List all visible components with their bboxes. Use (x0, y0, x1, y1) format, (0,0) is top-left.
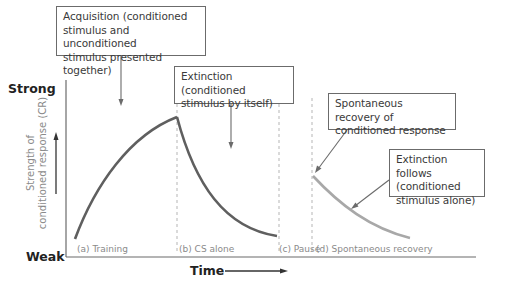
weak-label: Weak (26, 249, 65, 264)
y-axis-title: Strength of conditioned response (CR) (25, 88, 51, 238)
acquisition-curve (75, 117, 177, 239)
phase-label-d: (d) Spontaneous recovery (316, 244, 433, 254)
acquisition-callout: Acquisition (conditioned stimulus and un… (56, 6, 206, 56)
extinction-follows-line1: Extinction follows (396, 153, 478, 180)
phase-label-a: (a) Training (77, 244, 128, 254)
spontaneous-callout: Spontaneous recovery of conditioned resp… (328, 93, 456, 130)
extinction-follows-callout: Extinction follows (conditioned stimulus… (389, 149, 485, 197)
extinction-curve (177, 117, 277, 236)
extinction-pointer-head (229, 142, 234, 149)
extinction-follows-line2: (conditioned (396, 180, 478, 194)
time-arrow-head (280, 269, 288, 274)
spontaneous-line1: Spontaneous recovery of (335, 97, 449, 124)
extinction-follows-pointer (355, 180, 389, 206)
acquisition-line2: stimulus and unconditioned (63, 24, 199, 51)
extinction-follows-line3: stimulus alone) (396, 194, 478, 208)
y-axis-title-line2: conditioned response (CR) (37, 88, 49, 238)
phase-label-c: (c) Pause (279, 244, 320, 254)
time-label: Time (190, 263, 224, 278)
spontaneous-line2: conditioned response (335, 124, 449, 138)
extinction-follows-pointer-head (351, 203, 359, 210)
extinction-line2: stimulus by itself) (181, 97, 287, 111)
acquisition-pointer-head (119, 99, 124, 106)
spontaneous-pointer-head (315, 166, 322, 174)
y-arrow-head (54, 132, 59, 140)
extinction-callout: Extinction (conditioned stimulus by itse… (174, 66, 294, 104)
extinction-line1: Extinction (conditioned (181, 70, 287, 97)
y-axis-title-line1: Strength of (25, 88, 37, 238)
acquisition-line1: Acquisition (conditioned (63, 10, 199, 24)
phase-label-b: (b) CS alone (179, 244, 234, 254)
